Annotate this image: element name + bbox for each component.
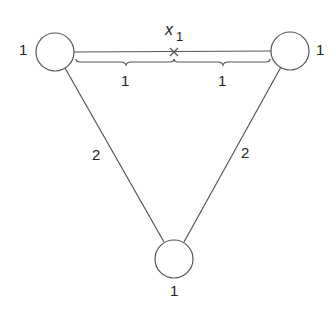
edge-left-bottom (65, 68, 164, 242)
point-label-x: x (164, 21, 174, 38)
graph-diagram: 1 1 1 1 1 2 2 x 1 (0, 0, 336, 311)
node-left-weight: 1 (19, 41, 27, 58)
node-right-weight: 1 (316, 41, 324, 58)
node-bottom (155, 240, 193, 278)
edge-left-length: 2 (92, 146, 100, 163)
node-right (271, 32, 309, 70)
segment-right-length: 1 (218, 72, 226, 89)
edge-right-length: 2 (241, 144, 249, 161)
node-left (36, 33, 74, 71)
node-bottom-weight: 1 (170, 282, 178, 299)
edge-right-bottom (184, 67, 281, 242)
point-label-subscript: 1 (176, 29, 183, 44)
brace-left-segment (76, 59, 174, 65)
brace-right-segment (174, 59, 270, 65)
segment-left-length: 1 (121, 72, 129, 89)
